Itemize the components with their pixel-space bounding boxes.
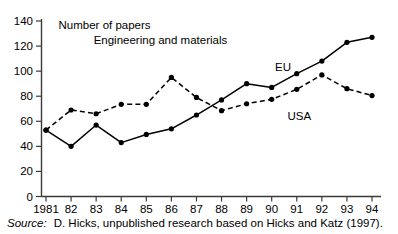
line-chart: 020406080100120140 198182838485868788899… bbox=[0, 0, 398, 234]
y-tick-label: 20 bbox=[20, 165, 33, 177]
data-point-eu bbox=[269, 85, 274, 90]
y-tick-label: 100 bbox=[14, 65, 33, 77]
x-tick-label: 83 bbox=[90, 203, 103, 215]
chart-series bbox=[43, 35, 374, 149]
data-point-usa bbox=[319, 72, 324, 77]
data-point-usa bbox=[244, 101, 249, 106]
y-tick-label: 80 bbox=[20, 90, 33, 102]
data-point-eu bbox=[169, 126, 174, 131]
data-point-eu bbox=[244, 81, 249, 86]
data-point-usa bbox=[68, 107, 73, 112]
data-point-eu bbox=[219, 97, 224, 102]
data-point-eu bbox=[319, 59, 324, 64]
data-point-usa bbox=[144, 102, 149, 107]
chart-annotation: Number of papers bbox=[59, 19, 151, 31]
data-point-eu bbox=[144, 132, 149, 137]
data-point-eu bbox=[369, 35, 374, 40]
series-line-eu bbox=[46, 37, 372, 146]
data-point-eu bbox=[294, 71, 299, 76]
y-tick-label: 0 bbox=[27, 191, 33, 203]
x-tick-label: 94 bbox=[366, 203, 379, 215]
data-point-eu bbox=[94, 122, 99, 127]
chart-annotation: Engineering and materials bbox=[94, 34, 228, 46]
x-tick-label: 93 bbox=[341, 203, 354, 215]
source-label: Source: bbox=[7, 217, 47, 229]
x-axis-ticks: 198182838485868788899091929394 bbox=[33, 197, 379, 216]
figure-container: 020406080100120140 198182838485868788899… bbox=[0, 0, 398, 234]
x-tick-label: 90 bbox=[265, 203, 278, 215]
data-point-eu bbox=[344, 40, 349, 45]
x-tick-label: 85 bbox=[140, 203, 153, 215]
source-text: D. Hicks, unpublished research based on … bbox=[54, 217, 383, 229]
data-point-usa bbox=[219, 108, 224, 113]
x-tick-label: 1981 bbox=[33, 203, 59, 215]
series-labels: EUUSA bbox=[275, 61, 311, 122]
data-point-usa bbox=[119, 102, 124, 107]
source-note: Source:D. Hicks, unpublished research ba… bbox=[7, 216, 383, 230]
data-point-usa bbox=[194, 95, 199, 100]
x-tick-label: 91 bbox=[290, 203, 303, 215]
y-axis: 020406080100120140 bbox=[14, 15, 42, 203]
x-tick-label: 88 bbox=[215, 203, 228, 215]
data-point-usa bbox=[369, 93, 374, 98]
y-tick-label: 120 bbox=[14, 40, 33, 52]
y-tick-label: 60 bbox=[20, 115, 33, 127]
y-axis-ticks: 020406080100120140 bbox=[14, 15, 42, 203]
series-label-usa: USA bbox=[287, 110, 311, 122]
y-tick-label: 40 bbox=[20, 140, 33, 152]
data-point-usa bbox=[43, 127, 48, 132]
x-tick-label: 87 bbox=[190, 203, 203, 215]
data-point-usa bbox=[169, 75, 174, 80]
data-point-eu bbox=[68, 144, 73, 149]
series-line-usa bbox=[46, 75, 372, 130]
x-tick-label: 82 bbox=[65, 203, 78, 215]
data-point-eu bbox=[194, 112, 199, 117]
data-point-usa bbox=[344, 86, 349, 91]
data-point-usa bbox=[269, 97, 274, 102]
chart-annotations: Number of papersEngineering and material… bbox=[59, 19, 228, 46]
data-point-usa bbox=[94, 111, 99, 116]
data-point-eu bbox=[119, 140, 124, 145]
y-tick-label: 140 bbox=[14, 15, 33, 27]
x-tick-label: 92 bbox=[315, 203, 328, 215]
x-tick-label: 84 bbox=[115, 203, 128, 215]
series-label-eu: EU bbox=[275, 61, 291, 73]
x-tick-label: 86 bbox=[165, 203, 178, 215]
x-tick-label: 89 bbox=[240, 203, 253, 215]
x-axis: 198182838485868788899091929394 bbox=[33, 197, 381, 216]
data-point-usa bbox=[294, 87, 299, 92]
